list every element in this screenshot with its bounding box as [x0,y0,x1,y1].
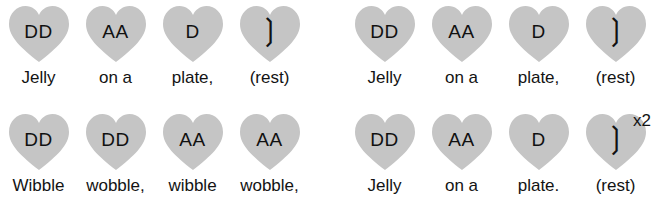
beat-cell[interactable]: AA on a [423,4,500,88]
heart-icon: AA [430,4,494,64]
rhythm-symbol: D [507,4,571,64]
rhythm-symbol: AA [161,112,225,172]
lyric-text: Jelly [367,69,401,88]
heart-icon: DD [7,4,71,64]
rhythm-symbol: D [507,112,571,172]
heart-icon: AA [430,112,494,172]
lyric-text: on a [445,69,478,88]
rhythm-symbol: AA [238,112,302,172]
heart-icon: AA [84,4,148,64]
heart-icon: DD [7,112,71,172]
lyric-text: on a [445,177,478,196]
lyric-text: (rest) [250,69,290,88]
lyric-text: wibble [168,177,216,196]
lyric-text: plate. [518,177,560,196]
beat-cell[interactable]: ❳ (rest) [231,4,308,88]
lyric-text: Jelly [367,177,401,196]
beat-cell[interactable]: AA on a [423,112,500,196]
rhythm-symbol: AA [430,4,494,64]
lyric-text: wobble, [240,177,299,196]
quarter-rest-icon: ❳ [238,4,302,64]
lyric-text: plate, [172,69,214,88]
rhythm-row-1: DD Jelly AA on a D plate, [0,4,657,88]
rhythm-symbol: D [161,4,225,64]
lyric-text: Wibble [13,177,65,196]
heart-icon: DD [353,112,417,172]
lyric-text: (rest) [596,177,636,196]
beat-cell[interactable]: AA wobble, [231,112,308,196]
beat-cell[interactable]: D plate, [500,4,577,88]
rhythm-symbol: DD [7,4,71,64]
heart-icon: DD [84,112,148,172]
beat-cell[interactable]: DD Jelly [0,4,77,88]
rhythm-symbol: DD [7,112,71,172]
repeat-count-label: x2 [633,112,651,129]
lyric-text: Jelly [21,69,55,88]
row-1-group-2: DD Jelly AA on a D plate, [346,4,654,88]
heart-icon: ❳ [584,4,648,64]
beat-cell[interactable]: DD Jelly [346,112,423,196]
beat-cell[interactable]: D plate. [500,112,577,196]
beat-cell[interactable]: DD wobble, [77,112,154,196]
beat-cell[interactable]: ❳ (rest) [577,4,654,88]
beat-cell[interactable]: DD Jelly [346,4,423,88]
heart-icon: D [507,112,571,172]
lyric-text: wobble, [86,177,145,196]
rhythm-sheet: DD Jelly AA on a D plate, [0,0,657,208]
beat-cell[interactable]: D plate, [154,4,231,88]
heart-icon: AA [161,112,225,172]
rhythm-symbol: DD [84,112,148,172]
heart-icon: D [507,4,571,64]
row-2-group-2: DD Jelly AA on a D plate. [346,112,654,196]
beat-cell[interactable]: AA on a [77,4,154,88]
heart-icon: ❳ [238,4,302,64]
row-1-group-1: DD Jelly AA on a D plate, [0,4,308,88]
row-2-group-1: DD Wibble DD wobble, AA wibble [0,112,308,196]
rhythm-symbol: DD [353,4,417,64]
lyric-text: (rest) [596,69,636,88]
rhythm-symbol: AA [84,4,148,64]
beat-cell[interactable]: DD Wibble [0,112,77,196]
rhythm-symbol: DD [353,112,417,172]
rhythm-symbol: AA [430,112,494,172]
quarter-rest-icon: ❳ [584,4,648,64]
lyric-text: plate, [518,69,560,88]
heart-icon: D [161,4,225,64]
lyric-text: on a [99,69,132,88]
rhythm-row-2: DD Wibble DD wobble, AA wibble [0,112,657,196]
heart-icon: AA [238,112,302,172]
beat-cell[interactable]: AA wibble [154,112,231,196]
heart-icon: DD [353,4,417,64]
